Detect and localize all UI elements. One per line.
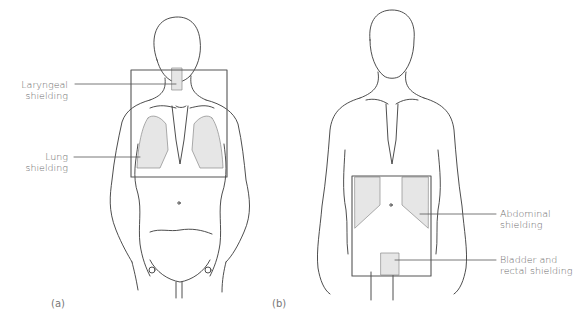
abdominal-shield-left — [355, 177, 380, 228]
label-line: Lung — [8, 151, 68, 162]
laryngeal-shield — [172, 68, 182, 90]
label-line: shielding — [8, 162, 68, 173]
panel-label-a: (a) — [51, 298, 65, 309]
abdominal-shield-right — [402, 177, 428, 228]
bladder-rectal-shielding-label: Bladder and rectal shielding — [500, 254, 583, 276]
label-line: shielding — [8, 90, 68, 101]
figure-a-shields — [137, 68, 223, 168]
laryngeal-shielding-label: Laryngeal shielding — [8, 79, 68, 101]
label-line: rectal shielding — [500, 265, 583, 276]
abdominal-shielding-label: Abdominal shielding — [500, 208, 580, 230]
label-line: shielding — [500, 219, 580, 230]
lung-shield-left — [137, 116, 168, 168]
label-line: Abdominal — [500, 208, 580, 219]
bladder-rectal-shield — [381, 253, 399, 275]
lung-shield-right — [192, 116, 223, 168]
lung-shielding-label: Lung shielding — [8, 151, 68, 173]
label-line: Bladder and — [500, 254, 583, 265]
figure-canvas — [0, 0, 583, 325]
label-line: Laryngeal — [8, 79, 68, 90]
panel-label-b: (b) — [272, 298, 286, 309]
